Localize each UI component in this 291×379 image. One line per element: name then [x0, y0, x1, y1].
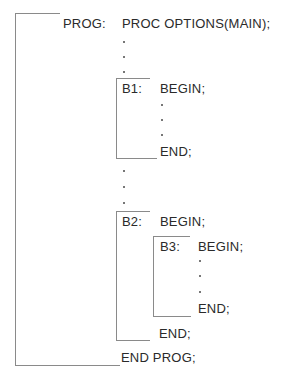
prog-bracket-side	[15, 13, 16, 366]
b2-end: END;	[159, 327, 191, 341]
b2-begin: BEGIN;	[160, 215, 205, 229]
ellipsis-dot	[161, 104, 163, 106]
ellipsis-dot	[123, 170, 125, 172]
b1-begin: BEGIN;	[160, 82, 205, 96]
end-prog-line: END PROG;	[121, 351, 196, 365]
b2-bracket-side	[116, 211, 117, 341]
ellipsis-dot	[199, 291, 201, 293]
prog-label: PROG:	[63, 17, 106, 31]
b2-bracket-top	[116, 211, 150, 212]
ellipsis-dot	[161, 119, 163, 121]
b3-end: END;	[198, 302, 230, 316]
b1-bracket-bottom	[116, 158, 157, 159]
block-structure-diagram: PROG: PROC OPTIONS(MAIN); B1: BEGIN; END…	[0, 0, 291, 379]
ellipsis-dot	[123, 186, 125, 188]
ellipsis-dot	[199, 260, 201, 262]
ellipsis-dot	[123, 56, 125, 58]
ellipsis-dot	[123, 41, 125, 43]
prog-bracket-top	[15, 13, 60, 14]
b3-label: B3:	[160, 240, 180, 254]
b1-bracket-top	[116, 78, 150, 79]
b1-bracket-side	[116, 78, 117, 159]
b3-bracket-bottom	[153, 316, 191, 317]
proc-options-line: PROC OPTIONS(MAIN);	[122, 17, 270, 31]
ellipsis-dot	[199, 275, 201, 277]
ellipsis-dot	[161, 134, 163, 136]
b2-bracket-bottom	[116, 340, 150, 341]
ellipsis-dot	[123, 202, 125, 204]
b3-begin: BEGIN;	[198, 240, 243, 254]
b1-label: B1:	[122, 82, 142, 96]
ellipsis-dot	[123, 71, 125, 73]
b3-bracket-side	[153, 236, 154, 317]
b2-label: B2:	[122, 215, 142, 229]
b1-end: END;	[160, 145, 192, 159]
b3-bracket-top	[153, 236, 190, 237]
prog-bracket-bottom	[15, 365, 120, 366]
